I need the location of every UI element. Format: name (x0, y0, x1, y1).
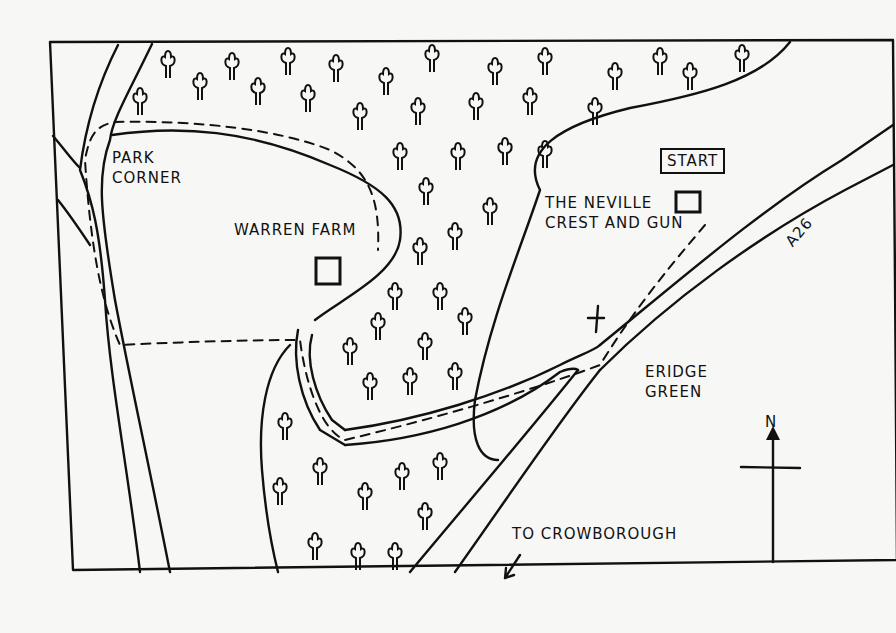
tree-icon (343, 338, 356, 365)
tree-icon (371, 313, 384, 340)
tree-icon (379, 68, 392, 95)
tree-icon (523, 88, 536, 115)
map-drawing (0, 0, 896, 633)
tree-icon (225, 53, 238, 80)
tree-icon (451, 143, 464, 170)
tree-icon (393, 143, 406, 170)
tree-icon (363, 373, 376, 400)
tree-icon (251, 78, 264, 105)
tree-icon (278, 413, 291, 440)
tree-icon (308, 533, 321, 560)
road-left-inner (102, 44, 170, 572)
tree-icon (418, 503, 431, 530)
tree-icon (413, 238, 426, 265)
tree-icon (469, 93, 482, 120)
tree-icon (193, 73, 206, 100)
church-cross-icon (588, 306, 604, 332)
tree-icon (161, 51, 174, 78)
tree-icon (498, 138, 511, 165)
label-start: START (660, 148, 725, 174)
tree-icon (133, 88, 146, 115)
label-park-corner: PARKCORNER (112, 148, 182, 188)
tree-icon (425, 45, 438, 72)
tree-icon (388, 283, 401, 310)
tree-icon (301, 85, 314, 112)
tree-icon (735, 45, 748, 72)
lane-top (345, 345, 600, 430)
label-north: N (765, 412, 777, 432)
tree-icon (448, 363, 461, 390)
tree-icon (358, 483, 371, 510)
tree-icon (483, 198, 496, 225)
label-to-crowborough: TO CROWBOROUGH (512, 524, 677, 544)
tree-icon (313, 458, 326, 485)
a26-top (600, 125, 893, 345)
road-left-outer (80, 45, 140, 572)
tree-icon (448, 223, 461, 250)
lane-bottom (345, 369, 578, 445)
tree-icon (538, 48, 551, 75)
tree-icon (411, 98, 424, 125)
tree-icon (488, 58, 501, 85)
label-eridge-green: ERIDGEGREEN (645, 362, 708, 402)
tree-icon (395, 463, 408, 490)
tree-icon (403, 368, 416, 395)
tree-icon (329, 55, 342, 82)
woodland-trees (133, 45, 748, 570)
north-arrow-icon (741, 432, 800, 562)
tree-icon (433, 453, 446, 480)
label-pub: THE NEVILLECREST AND GUN (545, 193, 683, 233)
tree-icon (608, 63, 621, 90)
tree-icon (683, 63, 696, 90)
tree-icon (458, 308, 471, 335)
label-warren-farm: WARREN FARM (234, 220, 356, 240)
building-icon (316, 258, 340, 284)
tree-icon (419, 178, 432, 205)
direction-arrow-icon (505, 555, 520, 578)
tree-icon (353, 103, 366, 130)
tree-icon (273, 478, 286, 505)
tree-icon (653, 48, 666, 75)
tree-icon (433, 283, 446, 310)
tree-icon (281, 48, 294, 75)
tree-icon (418, 333, 431, 360)
